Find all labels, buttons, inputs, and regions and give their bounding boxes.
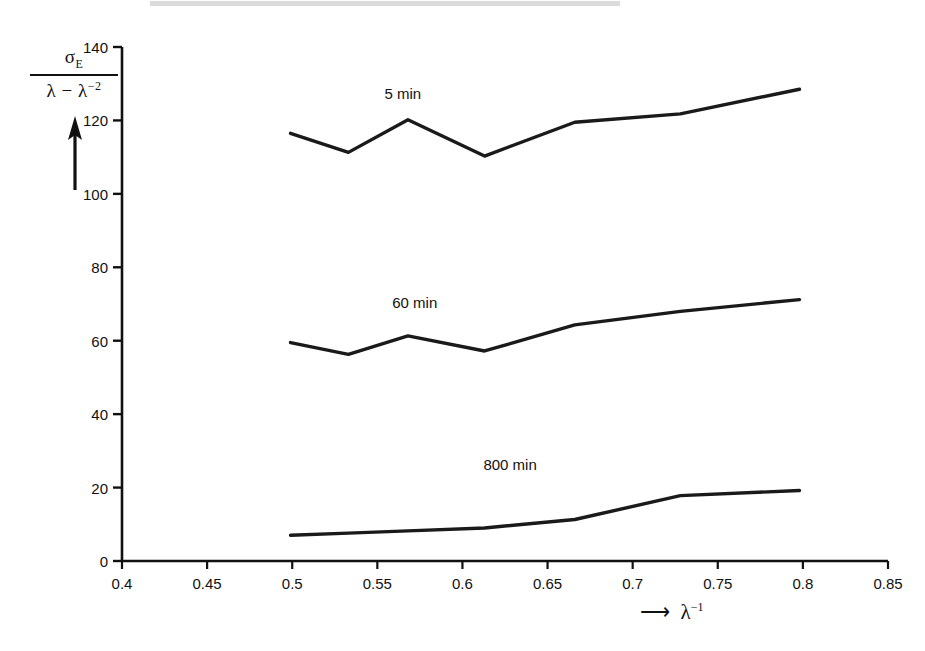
y-axis-label-denominator: λ − λ−2 bbox=[28, 79, 120, 102]
fraction-rule bbox=[30, 74, 118, 76]
x-tick-label: 0.65 bbox=[533, 575, 562, 592]
y-tick-label: 20 bbox=[60, 479, 108, 496]
series-annotation: 60 min bbox=[392, 294, 437, 311]
series-annotation: 800 min bbox=[483, 456, 536, 473]
x-tick-label: 0.7 bbox=[622, 575, 643, 592]
arrow-layer bbox=[68, 1, 620, 190]
scan-artifact bbox=[150, 1, 620, 6]
y-tick-label: 0 bbox=[60, 553, 108, 570]
y-tick-label: 40 bbox=[60, 406, 108, 423]
x-tick-label: 0.45 bbox=[193, 575, 222, 592]
series-annotation: 5 min bbox=[385, 85, 422, 102]
chart-figure: σE λ − λ−2 ⟶ λ−1 0204060801001201400.40.… bbox=[0, 0, 925, 651]
y-tick-label: 60 bbox=[60, 332, 108, 349]
y-tick-label: 120 bbox=[60, 112, 108, 129]
series-layer bbox=[291, 89, 800, 535]
x-axis-label: ⟶ λ−1 bbox=[640, 600, 703, 625]
lambda-expression: λ − λ bbox=[47, 80, 88, 101]
sigma-subscript: E bbox=[75, 57, 83, 71]
chart-canvas bbox=[0, 0, 925, 651]
y-tick-label: 80 bbox=[60, 259, 108, 276]
x-axis-lambda-exponent: −1 bbox=[691, 600, 704, 614]
x-tick-label: 0.55 bbox=[363, 575, 392, 592]
y-tick-label: 140 bbox=[60, 39, 108, 56]
series-line-2 bbox=[291, 300, 800, 355]
axis-layer bbox=[122, 47, 888, 561]
x-tick-label: 0.85 bbox=[873, 575, 902, 592]
x-tick-label: 0.6 bbox=[452, 575, 473, 592]
x-tick-label: 0.75 bbox=[703, 575, 732, 592]
lambda-exponent: −2 bbox=[88, 79, 102, 93]
x-tick-label: 0.4 bbox=[112, 575, 133, 592]
series-line-1 bbox=[291, 89, 800, 156]
x-axis-arrow-icon: ⟶ bbox=[640, 600, 670, 624]
y-tick-label: 100 bbox=[60, 185, 108, 202]
x-tick-label: 0.8 bbox=[792, 575, 813, 592]
x-tick-label: 0.5 bbox=[282, 575, 303, 592]
series-line-3 bbox=[291, 491, 800, 536]
x-axis-lambda: λ bbox=[681, 600, 691, 624]
